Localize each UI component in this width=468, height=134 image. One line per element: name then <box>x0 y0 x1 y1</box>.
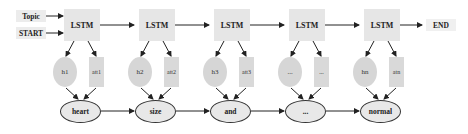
hidden-state-3: h3 <box>203 57 227 87</box>
hidden-state-n: hn <box>353 57 377 87</box>
attention-1: att1 <box>89 57 104 87</box>
lstm-cell-1: LSTM <box>64 9 100 41</box>
lstm-cell-5: LSTM <box>364 9 400 41</box>
attention-4: ... <box>314 57 329 87</box>
attention-3: att3 <box>239 57 254 87</box>
lstm-cell-4: LSTM <box>289 9 325 41</box>
end-output-node: END <box>426 19 456 31</box>
word-heart: heart <box>60 100 101 123</box>
word-and: and <box>210 100 251 123</box>
attention-n: atn <box>389 57 404 87</box>
word-size: size <box>135 100 176 123</box>
word-normal: normal <box>360 100 401 123</box>
lstm-cell-2: LSTM <box>139 9 175 41</box>
start-input-node: START <box>16 27 46 39</box>
lstm-cell-3: LSTM <box>214 9 250 41</box>
word-ellipsis: ... <box>285 100 326 123</box>
hidden-state-4: ... <box>278 57 302 87</box>
topic-input-node: Topic <box>16 10 46 22</box>
hidden-state-2: h2 <box>128 57 152 87</box>
hidden-state-1: h1 <box>53 57 77 87</box>
lstm-attention-diagram: Topic START LSTM LSTM LSTM LSTM LSTM END… <box>0 0 468 134</box>
attention-2: att2 <box>164 57 179 87</box>
